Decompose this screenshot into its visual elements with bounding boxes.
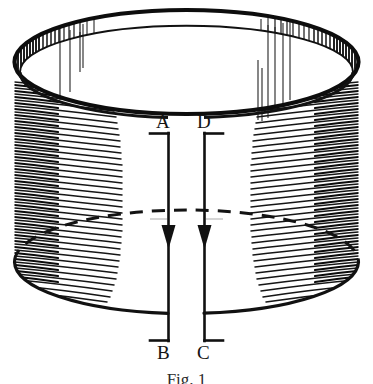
label-a: A bbox=[156, 112, 170, 131]
figure-container: A D B C Fig. 1 bbox=[0, 0, 373, 384]
label-b: B bbox=[157, 343, 170, 362]
cylinder-diagram bbox=[0, 0, 373, 384]
label-d: D bbox=[197, 112, 211, 131]
figure-caption: Fig. 1 bbox=[0, 371, 373, 384]
label-c: C bbox=[197, 343, 210, 362]
